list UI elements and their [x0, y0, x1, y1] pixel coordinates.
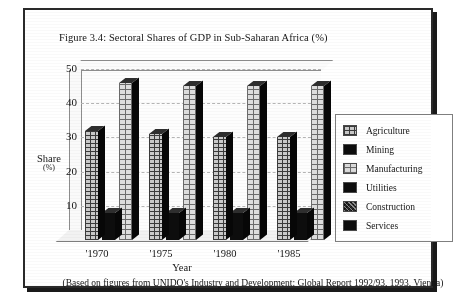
scanned-page: Figure 3.4: Sectoral Shares of GDP in Su… [23, 8, 433, 288]
legend-swatch-icon [343, 182, 357, 193]
legend-item-utilities[interactable]: Utilities [343, 180, 449, 195]
bar-side-face [226, 132, 233, 240]
figure-source-note: (Based on figures from UNIDO's Industry … [49, 278, 454, 288]
bar-agriculture [149, 134, 162, 240]
bar-group [85, 64, 137, 240]
x-axis-tick-label: '1975 [134, 248, 188, 259]
bar-side-face [324, 81, 331, 240]
legend-item-services[interactable]: Services [343, 218, 449, 233]
bar-side-face [260, 81, 267, 240]
legend-item-label: Manufacturing [366, 164, 422, 174]
x-axis-tick-label: '1985 [262, 248, 316, 259]
bar-side-face [162, 129, 169, 240]
x-axis-tick-label: '1970 [70, 248, 124, 259]
legend-item-label: Mining [366, 145, 394, 155]
figure-title: Figure 3.4: Sectoral Shares of GDP in Su… [59, 32, 389, 43]
bar-agriculture [213, 137, 226, 240]
bar-group [277, 64, 329, 240]
legend-item-construction[interactable]: Construction [343, 199, 449, 214]
chart-legend: AgricultureMiningManufacturingUtilitiesC… [335, 114, 453, 242]
bar-agriculture [85, 131, 98, 240]
legend-item-label: Services [366, 221, 398, 231]
bar-agriculture [277, 137, 290, 240]
legend-item-manufacturing[interactable]: Manufacturing [343, 161, 449, 176]
bar-groups [37, 58, 327, 246]
bar-side-face [132, 77, 139, 240]
legend-item-label: Utilities [366, 183, 397, 193]
x-axis-tick-label: '1980 [198, 248, 252, 259]
legend-swatch-icon [343, 220, 357, 231]
bar-group [213, 64, 265, 240]
bar-side-face [196, 81, 203, 240]
bar-group [149, 64, 201, 240]
legend-swatch-icon [343, 163, 357, 174]
chart-plot-area: 1020304050 Share (%) [37, 58, 327, 246]
bar-side-face [98, 125, 105, 240]
x-axis-title: Year [37, 262, 327, 273]
legend-item-label: Construction [366, 202, 415, 212]
legend-item-label: Agriculture [366, 126, 410, 136]
legend-swatch-icon [343, 201, 357, 212]
legend-item-agriculture[interactable]: Agriculture [343, 123, 449, 138]
legend-item-mining[interactable]: Mining [343, 142, 449, 157]
legend-swatch-icon [343, 125, 357, 136]
bar-side-face [290, 132, 297, 240]
legend-swatch-icon [343, 144, 357, 155]
